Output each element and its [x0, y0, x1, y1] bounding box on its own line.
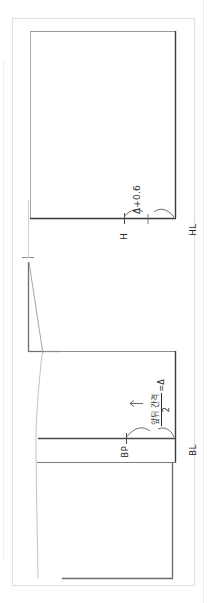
formula-result: =Δ — [157, 379, 166, 391]
formula-fraction: 앞뒤 간격 2 — [152, 393, 172, 426]
label-h: H — [120, 233, 129, 240]
label-hl: HL — [189, 223, 198, 236]
bp-leader-curve — [127, 428, 151, 437]
side-slant-line — [29, 262, 43, 354]
label-bl: BL — [189, 444, 198, 456]
bl-leader-curve — [158, 428, 174, 437]
pattern-diagram-canvas: HL H Δ+0.6 BL BP 앞뒤 간격 2 =Δ — [0, 0, 207, 603]
formula-numerator: 앞뒤 간격 — [152, 393, 160, 426]
side-seam-curve — [36, 354, 42, 578]
cf-leader-curve — [154, 209, 174, 217]
formula-callout: 앞뒤 간격 2 =Δ — [152, 379, 172, 426]
label-bp: BP — [121, 446, 130, 458]
formula-denominator: 2 — [163, 407, 171, 412]
outer-page-border — [13, 19, 195, 586]
measurement-arrow-icon — [130, 401, 143, 407]
label-delta-offset: Δ+0.6 — [133, 185, 142, 214]
pattern-line-drawing — [0, 0, 207, 603]
